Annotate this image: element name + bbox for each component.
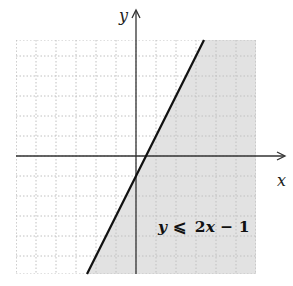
y-axis-label: y bbox=[118, 6, 129, 25]
inequality-label: y ⩽ 2x − 1 bbox=[157, 217, 249, 236]
inequality-graph: y x y ⩽ 2x − 1 bbox=[0, 0, 293, 286]
x-axis-label: x bbox=[277, 171, 286, 190]
